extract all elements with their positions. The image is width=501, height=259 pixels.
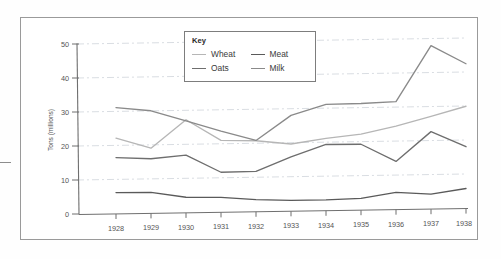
chart-legend: Key Wheat Meat Oats Milk [184,31,316,82]
y-axis [72,44,79,215]
x-tick-labels: 1928 1929 1930 1931 1932 1933 1934 1935 … [108,219,472,233]
legend-item-meat: Meat [251,49,310,59]
legend-swatch-milk [251,68,265,69]
y-tick-label: 50 [61,40,69,49]
y-tick-labels: 50 40 30 20 10 0 [61,40,69,219]
legend-label-milk: Milk [270,63,285,73]
x-tick-label: 1937 [423,219,439,228]
legend-swatch-wheat [192,54,206,55]
legend-row: Oats Milk [192,61,309,75]
legend-label-meat: Meat [270,49,289,59]
legend-label-oats: Oats [211,63,229,73]
series-line-wheat [116,106,466,148]
page-background: 50 40 30 20 10 0 Tons (millions) [0,0,501,259]
x-tick-label: 1938 [456,219,472,228]
legend-title: Key [192,36,309,45]
y-tick-label: 10 [61,176,69,185]
x-axis [79,209,468,220]
y-tick-label: 40 [61,74,69,83]
y-tick-label: 30 [61,108,69,117]
legend-item-wheat: Wheat [192,49,251,59]
y-axis-title: Tons (millions) [47,109,55,151]
legend-swatch-meat [251,54,265,55]
legend-swatch-oats [192,68,206,69]
legend-item-oats: Oats [192,63,251,73]
y-tick-label: 20 [61,142,69,151]
x-tick-label: 1928 [108,224,124,233]
legend-item-milk: Milk [251,63,310,73]
x-tick-label: 1930 [178,223,194,232]
x-tick-label: 1936 [388,220,404,229]
legend-label-wheat: Wheat [211,49,235,59]
legend-row: Wheat Meat [192,47,309,61]
series-line-meat [116,189,466,201]
x-tick-label: 1934 [318,221,334,230]
x-tick-label: 1929 [143,223,159,232]
x-tick-label: 1932 [248,222,264,231]
series-line-oats [116,132,466,173]
x-tick-label: 1931 [213,222,229,231]
x-tick-label: 1935 [353,220,369,229]
y-tick-label: 0 [65,210,69,219]
x-tick-label: 1933 [283,221,299,230]
